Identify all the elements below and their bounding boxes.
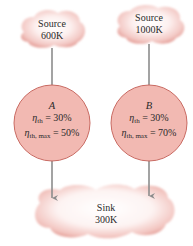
engine-a-name: A [14, 100, 90, 112]
engine-b-eta-max-value: = 70% [150, 127, 176, 138]
eta-subscript: th [134, 117, 139, 125]
engine-a-eta-th: ηth = 30% [14, 112, 90, 127]
eta-subscript: th, max [29, 132, 50, 140]
source-b-title: Source [118, 12, 180, 24]
source-a-label: Source 600K [22, 18, 82, 42]
engine-a-eta-max: ηth, max = 50% [14, 127, 90, 142]
eta-subscript: th, max [126, 132, 147, 140]
engine-b-label: B ηth = 30% ηth, max = 70% [111, 100, 187, 142]
engine-b-eta-th: ηth = 30% [111, 112, 187, 127]
engine-a-eta-max-value: = 50% [53, 127, 79, 138]
engine-b-eta-th-value: = 30% [142, 112, 168, 123]
sink-label: Sink 300K [76, 202, 136, 226]
source-a-title: Source [22, 18, 82, 30]
engine-a-eta-th-value: = 30% [45, 112, 71, 123]
engine-b-name: B [111, 100, 187, 112]
eta-subscript: th [37, 117, 42, 125]
source-a-temperature: 600K [22, 30, 82, 42]
engine-a-label: A ηth = 30% ηth, max = 50% [14, 100, 90, 142]
sink-title: Sink [76, 202, 136, 214]
engine-b-eta-max: ηth, max = 70% [111, 127, 187, 142]
sink-temperature: 300K [76, 214, 136, 226]
source-b-label: Source 1000K [118, 12, 180, 36]
source-b-temperature: 1000K [118, 24, 180, 36]
